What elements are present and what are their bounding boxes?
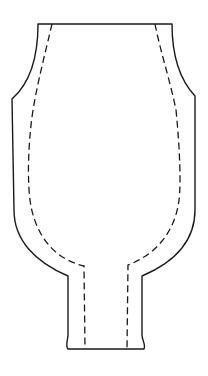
seam-line-left <box>28 24 85 349</box>
pattern-piece-drawing <box>0 0 208 376</box>
diagram-canvas <box>0 0 208 376</box>
seam-line-right <box>127 24 180 349</box>
